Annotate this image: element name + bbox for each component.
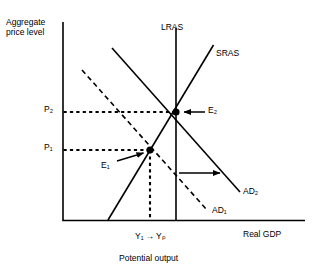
y-axis-title-line2: price level <box>6 27 44 37</box>
ad1-curve-label: AD₁ <box>212 206 227 216</box>
ad1-curve <box>82 70 207 210</box>
e2-point-label: E₂ <box>208 106 217 116</box>
lras-curve-label: LRAS <box>161 23 183 33</box>
sras-curve-label: SRAS <box>216 49 239 59</box>
sras-curve <box>108 45 214 220</box>
output-levels-label: Y₁→Yₚ <box>135 232 166 242</box>
e1-point-label: E₁ <box>101 161 110 171</box>
e2-point-marker <box>172 108 179 115</box>
guide-lines-group <box>64 112 177 220</box>
axes-group <box>62 22 305 221</box>
e1-point-marker <box>146 146 153 153</box>
y-axis-title-line1: Aggregate <box>6 17 45 27</box>
e1-pointer-arrow <box>117 153 144 161</box>
ad2-curve-label: AD₂ <box>243 187 258 197</box>
output-shift-arrow-glyph: → <box>144 231 157 241</box>
x-axis-title: Real GDP <box>243 230 281 240</box>
y1-label: Y₁ <box>135 231 144 241</box>
equilibrium-markers-group <box>146 108 179 153</box>
y-axis-title: Aggregate price level <box>6 18 45 38</box>
yp-label: Yₚ <box>156 231 166 241</box>
potential-output-caption: Potential output <box>119 254 178 264</box>
p1-axis-label: P₁ <box>44 143 53 153</box>
ad-as-diagram: Aggregate price level Real GDP LRAS SRAS… <box>0 0 313 272</box>
p2-axis-label: P₂ <box>44 105 53 115</box>
